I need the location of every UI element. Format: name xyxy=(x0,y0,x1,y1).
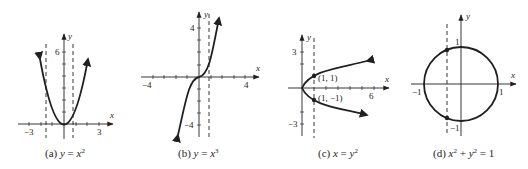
panel-d-unit-circle: y x −1 1 1 −1 (d) x2 + y2 = 1 xyxy=(411,11,516,160)
y-tick-label-3: 3 xyxy=(292,47,297,57)
x-tick-label-1: 1 xyxy=(499,87,504,97)
caption-c: (c) x = y2 xyxy=(318,147,358,160)
x-tick-label-neg4: −4 xyxy=(142,80,152,90)
caption-a: (a) y = x2 xyxy=(45,147,85,160)
x-axis-label: x xyxy=(109,110,114,120)
y-axis-label: y xyxy=(203,9,208,19)
x-tick-label-3: 3 xyxy=(97,127,102,137)
y-axis-label: y xyxy=(306,32,311,42)
y-tick-label-6: 6 xyxy=(55,47,60,57)
point-lower xyxy=(445,116,449,120)
point-1-neg1 xyxy=(312,98,316,102)
x-tick-label-neg3: −3 xyxy=(24,127,34,137)
x-axis-label: x xyxy=(510,70,515,80)
y-tick-label-neg1: −1 xyxy=(450,123,460,133)
cubic-curve xyxy=(178,18,219,135)
x-tick-label-neg1: −1 xyxy=(412,87,422,97)
point-label-1-1: (1, 1) xyxy=(318,73,338,83)
point-1-1 xyxy=(312,74,316,78)
x-axis-label: x xyxy=(384,74,389,84)
x-tick-label-6: 6 xyxy=(369,91,374,101)
panel-b-cubic: y x −4 4 4 −4 (b) y = x3 xyxy=(141,9,260,160)
panel-c-sideways-parabola: (1, 1) (1, −1) y x 6 3 −3 (c) x = y2 xyxy=(288,32,389,160)
y-axis-label: y xyxy=(67,31,72,41)
x-axis-label: x xyxy=(255,63,260,73)
point-upper xyxy=(445,48,449,52)
y-axis-label: y xyxy=(465,11,470,21)
y-tick-label-4: 4 xyxy=(190,23,195,33)
figure-panels: y x −3 3 6 (a) y = x2 xyxy=(0,0,528,169)
panel-a-parabola: y x −3 3 6 (a) y = x2 xyxy=(18,31,114,160)
caption-b: (b) y = x3 xyxy=(178,147,219,160)
caption-d: (d) x2 + y2 = 1 xyxy=(433,147,494,160)
y-tick-label-1: 1 xyxy=(455,37,460,47)
y-tick-label-neg4: −4 xyxy=(184,120,194,130)
point-label-1-neg1: (1, −1) xyxy=(318,93,343,103)
x-tick-label-4: 4 xyxy=(244,80,249,90)
y-tick-label-neg3: −3 xyxy=(288,119,298,129)
